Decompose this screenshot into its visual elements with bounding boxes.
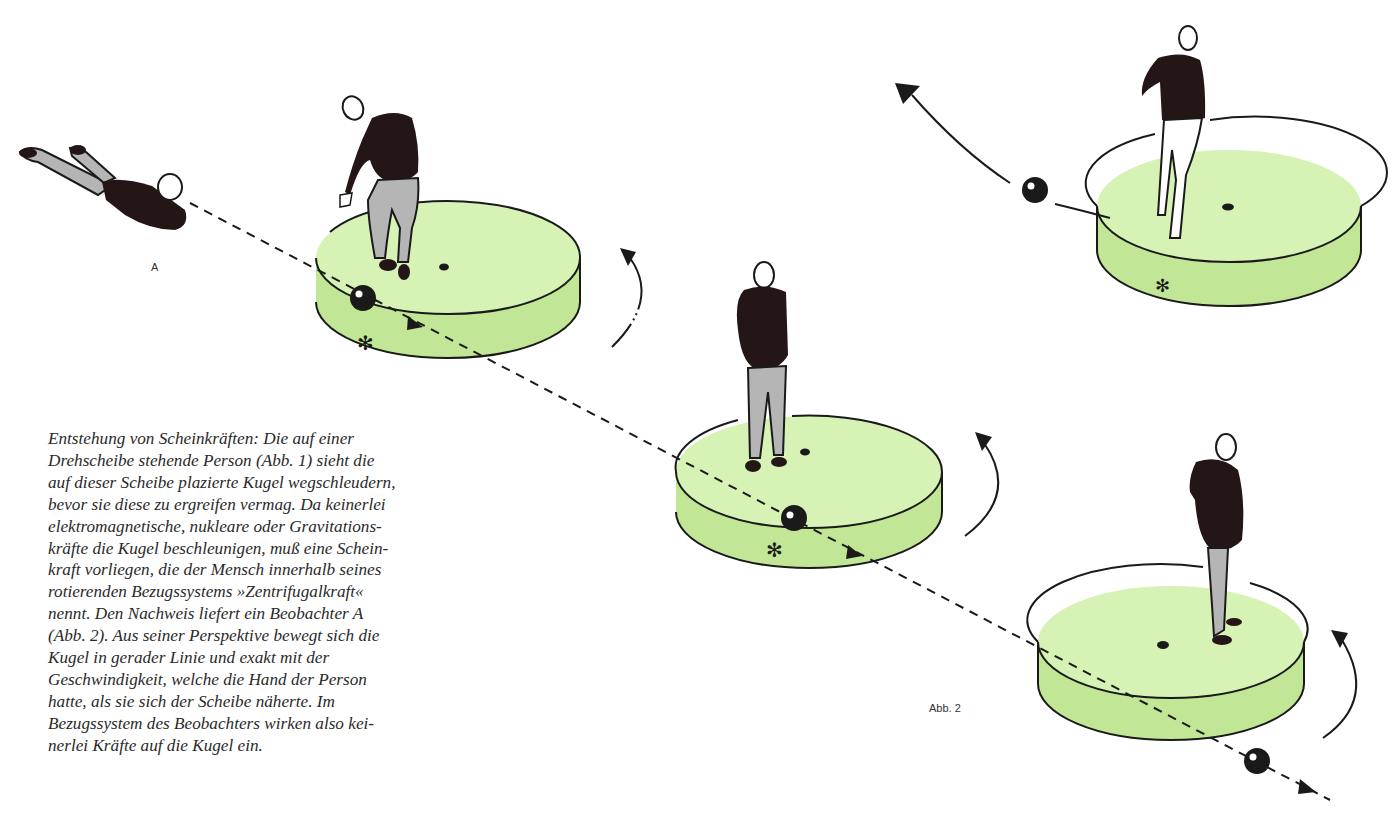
caption-line: Entstehung von Scheinkräften: Die auf ei… (48, 428, 488, 450)
rotation-arrow-icon (1323, 630, 1356, 738)
asterisk-marker-icon: ✻ (357, 331, 374, 355)
caption-line: kraft vorliegen, die der Mensch innerhal… (48, 559, 488, 581)
caption-line: Kugel in gerader Linie und exakt mit der (48, 647, 488, 669)
asterisk-marker-icon: ✻ (1155, 275, 1170, 296)
caption-line: nennt. Den Nachweis liefert ein Beobacht… (48, 603, 488, 625)
ball-icon (350, 285, 376, 311)
observer-label: A (151, 261, 158, 273)
disc-center-dot (1157, 641, 1169, 649)
trajectory-arrow-icon (1298, 779, 1316, 794)
disc-center-dot (439, 264, 449, 271)
rotation-arrow-icon (965, 432, 998, 536)
caption-line: auf dieser Scheibe plazierte Kugel wegsc… (48, 472, 488, 494)
caption-line: rotierenden Bezugssystems »Zentrifugalkr… (48, 581, 488, 603)
ball-icon (1244, 748, 1270, 774)
curved-ball-path (895, 83, 1110, 218)
asterisk-marker-icon: ✻ (766, 538, 783, 562)
caption-line: Bezugssystem des Beobachters wirken also… (48, 713, 488, 735)
caption-line: bevor sie diese zu ergreifen vermag. Da … (48, 494, 488, 516)
ball-icon (781, 505, 807, 531)
caption-line: Geschwindigkeit, welche die Hand der Per… (48, 669, 488, 691)
disc-center-dot (800, 449, 810, 456)
caption-line: Drehscheibe stehende Person (Abb. 1) sie… (48, 450, 488, 472)
turntable-3: ✻ (1086, 117, 1387, 306)
figure-caption: Entstehung von Scheinkräften: Die auf ei… (48, 428, 488, 757)
caption-line: kräfte die Kugel beschleunigen, muß eine… (48, 538, 488, 560)
figure-label: Abb. 2 (929, 702, 961, 714)
caption-line: (Abb. 2). Aus seiner Perspektive bewegt … (48, 625, 488, 647)
caption-line: elektromagnetische, nukleare oder Gravit… (48, 516, 488, 538)
caption-line: hatte, als sie sich der Scheibe näherte.… (48, 691, 488, 713)
disc-center-dot (1222, 204, 1234, 211)
turntable-2: ✻ (676, 416, 942, 568)
person-lying-icon (19, 145, 186, 230)
turntable-4 (1027, 564, 1307, 740)
ball-icon (1022, 177, 1048, 203)
rotation-arrow-icon (612, 248, 642, 347)
turntable-1: ✻ (316, 201, 580, 358)
caption-line: nerlei Kräfte auf die Kugel ein. (48, 735, 488, 757)
